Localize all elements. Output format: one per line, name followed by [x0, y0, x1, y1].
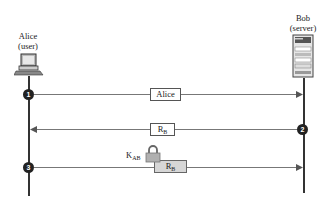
step-2-badge: 2: [297, 124, 308, 135]
computer-icon: [14, 53, 44, 77]
arrowhead-left-icon: [30, 126, 37, 133]
message-2-label-sub: B: [163, 129, 167, 135]
message-1-box: Alice: [150, 88, 181, 101]
bob-role: (server): [283, 23, 323, 33]
arrowhead-right-icon: [296, 164, 303, 171]
arrowhead-right-icon: [296, 91, 303, 98]
padlock-icon: [145, 145, 161, 163]
step-1-badge: 1: [23, 89, 34, 100]
message-3-label-sub: B: [171, 166, 175, 172]
step-3-badge: 3: [23, 162, 34, 173]
alice-name: Alice: [8, 31, 48, 41]
key-label-sub: AB: [132, 155, 140, 161]
key-label: KAB: [126, 150, 140, 161]
message-2-box: RB: [150, 123, 175, 136]
bob-lifeline: [303, 78, 305, 193]
server-icon: [292, 34, 314, 78]
alice-role: (user): [8, 41, 48, 51]
bob-name: Bob: [283, 13, 323, 23]
